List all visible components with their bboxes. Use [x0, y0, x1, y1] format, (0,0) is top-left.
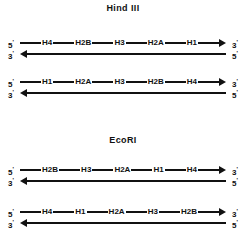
prime-mark: ' [12, 177, 13, 183]
duplex-ecori-2: 5' 3' H4 H1 H2A H3 H2B 3 [0, 206, 246, 230]
gene-label: H4 [41, 39, 53, 47]
prime-mark: ' [237, 177, 238, 183]
gene-label: H2B [180, 208, 198, 216]
strand-segment [27, 53, 226, 55]
gene-label: H3 [113, 39, 125, 47]
top-strand-hind3-2: 5' 3' H1 H2A H3 H2B H4 [0, 76, 246, 87]
strand-segment [126, 211, 147, 213]
strand-segment [92, 42, 113, 44]
prime-mark: ' [237, 39, 238, 45]
strand-segment [165, 42, 186, 44]
prime-mark: ' [12, 208, 13, 214]
strand-segment [131, 169, 152, 171]
panel-hind3: Hind III 5' 3' H4 H2B H3 H2A H1 [0, 0, 246, 123]
strand-segment [198, 169, 219, 171]
prime-mark: ' [12, 78, 13, 84]
gene-label: H2A [113, 166, 131, 174]
strand-segment [53, 81, 74, 83]
prime-mark: ' [237, 208, 238, 214]
strand-segment [126, 42, 147, 44]
strand-end-label-right: 5' [232, 50, 238, 61]
prime-mark: ' [12, 219, 13, 225]
gene-label: H4 [186, 166, 198, 174]
gene-label: H3 [113, 78, 125, 86]
gene-label: H2B [147, 78, 165, 86]
strand-segment [165, 81, 186, 83]
strand-end-label-left: 3' [8, 177, 14, 188]
prime-mark: ' [237, 89, 238, 95]
strand-segment [20, 42, 41, 44]
prime-mark: ' [12, 39, 13, 45]
panel-title-ecori: EcoRI [0, 123, 246, 145]
top-strand-ecori-2: 5' 3' H4 H1 H2A H3 H2B [0, 206, 246, 217]
arrow-right-icon [219, 78, 226, 86]
prime-mark: ' [237, 219, 238, 225]
bottom-strand-hind3-1: 3' 5' [0, 48, 246, 59]
arrow-left-icon [20, 177, 27, 185]
prime-mark: ' [237, 166, 238, 172]
duplex-ecori-1: 5' 3' H2B H3 H2A H1 H4 3 [0, 164, 246, 188]
strand-end-label-left: 3' [8, 89, 14, 100]
strand-track: H2B H3 H2A H1 H4 [20, 164, 226, 175]
gene-label: H2A [147, 39, 165, 47]
gene-label: H1 [152, 166, 164, 174]
strand-end-label-right: 5' [232, 177, 238, 188]
strand-segment [27, 92, 226, 94]
arrow-right-icon [219, 208, 226, 216]
gene-label: H2B [41, 166, 59, 174]
duplex-hind3-2: 5' 3' H1 H2A H3 H2B H4 3 [0, 76, 246, 100]
strand-track [20, 217, 226, 228]
gene-label: H2A [74, 78, 92, 86]
strand-segment [198, 42, 219, 44]
strand-segment [27, 222, 226, 224]
panel-ecori: EcoRI 5' 3' H2B H3 H2A H1 H4 [0, 123, 246, 245]
bottom-strand-hind3-2: 3' 5' [0, 87, 246, 98]
prime-mark: ' [12, 166, 13, 172]
strand-segment [198, 211, 219, 213]
gene-label: H2A [108, 208, 126, 216]
strand-segment [198, 81, 219, 83]
duplex-hind3-1: 5' 3' H4 H2B H3 H2A H1 3 [0, 37, 246, 61]
arrow-left-icon [20, 219, 27, 227]
strand-segment [53, 211, 74, 213]
strand-track [20, 175, 226, 186]
strand-end-label-right: 5' [232, 89, 238, 100]
gene-label: H1 [74, 208, 86, 216]
strand-end-label-right: 5' [232, 219, 238, 230]
gene-label: H4 [41, 208, 53, 216]
strand-track [20, 48, 226, 59]
gene-label: H3 [80, 166, 92, 174]
top-strand-ecori-1: 5' 3' H2B H3 H2A H1 H4 [0, 164, 246, 175]
arrow-left-icon [20, 89, 27, 97]
arrow-right-icon [219, 39, 226, 47]
strand-segment [20, 211, 41, 213]
strand-segment [126, 81, 147, 83]
prime-mark: ' [237, 78, 238, 84]
bottom-strand-ecori-1: 3' 5' [0, 175, 246, 186]
strand-track: H4 H2B H3 H2A H1 [20, 37, 226, 48]
strand-track: H4 H1 H2A H3 H2B [20, 206, 226, 217]
prime-mark: ' [12, 89, 13, 95]
strand-segment [27, 180, 226, 182]
gene-label: H3 [147, 208, 159, 216]
arrow-left-icon [20, 50, 27, 58]
strand-segment [92, 81, 113, 83]
strand-segment [165, 169, 186, 171]
strand-segment [59, 169, 80, 171]
strand-end-label-left: 3' [8, 219, 14, 230]
strand-segment [159, 211, 180, 213]
strand-track: H1 H2A H3 H2B H4 [20, 76, 226, 87]
gene-label: H2B [74, 39, 92, 47]
panel-title-hind3: Hind III [0, 0, 246, 13]
prime-mark: ' [237, 50, 238, 56]
arrow-right-icon [219, 166, 226, 174]
strand-segment [87, 211, 108, 213]
strand-track [20, 87, 226, 98]
gene-label: H4 [186, 78, 198, 86]
bottom-strand-ecori-2: 3' 5' [0, 217, 246, 228]
top-strand-hind3-1: 5' 3' H4 H2B H3 H2A H1 [0, 37, 246, 48]
gene-label: H1 [186, 39, 198, 47]
strand-segment [53, 42, 74, 44]
gene-label: H1 [41, 78, 53, 86]
strand-segment [20, 81, 41, 83]
